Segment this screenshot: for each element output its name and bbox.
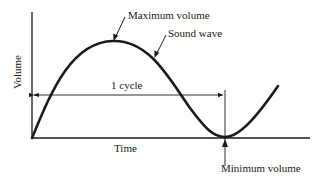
minimum-pointer-arrow-icon (222, 139, 228, 147)
cycle-start-arrow-icon (33, 93, 39, 97)
maximum-volume-label: Maximum volume (128, 10, 210, 21)
maximum-pointer-line (115, 17, 125, 38)
sound-wave-diagram (0, 0, 329, 183)
x-axis-label: Time (114, 143, 137, 154)
minimum-volume-label: Minimum volume (221, 163, 301, 174)
y-axis-label: Volume (12, 55, 23, 89)
sound-wave-label: Sound wave (168, 28, 222, 39)
cycle-label: 1 cycle (111, 80, 142, 91)
wave-pointer-arrow-icon (154, 51, 159, 59)
